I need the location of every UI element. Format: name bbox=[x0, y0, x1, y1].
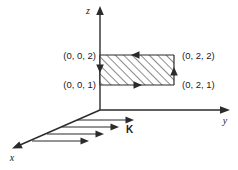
surface-current-arrows: K bbox=[32, 117, 134, 145]
k-arrow-2 bbox=[62, 124, 119, 131]
corner-label-top-right: (0, 2, 2) bbox=[182, 50, 215, 61]
corner-label-bottom-left: (0, 0, 1) bbox=[63, 79, 96, 90]
x-axis: x bbox=[9, 110, 100, 163]
current-label: K bbox=[126, 124, 134, 135]
k-arrow-1-head bbox=[126, 117, 135, 124]
z-axis-label: z bbox=[85, 5, 90, 16]
k-arrow-3 bbox=[47, 131, 104, 138]
corner-label-bottom-right: (0, 2, 1) bbox=[182, 79, 215, 90]
y-axis-arrowhead bbox=[220, 106, 230, 114]
y-axis-label: y bbox=[222, 115, 228, 126]
figure-root: z y x bbox=[0, 0, 238, 170]
k-arrow-4-head bbox=[81, 138, 90, 145]
k-arrow-3-head bbox=[96, 131, 105, 138]
x-axis-label: x bbox=[9, 152, 15, 163]
k-arrow-2-head bbox=[111, 124, 120, 131]
z-axis-arrowhead bbox=[96, 6, 104, 15]
loop-hatched-fill bbox=[100, 55, 174, 85]
k-arrow-4 bbox=[32, 138, 89, 145]
y-axis: y bbox=[100, 106, 230, 126]
amperian-loop bbox=[96, 51, 178, 89]
k-arrow-1 bbox=[77, 117, 134, 124]
corner-label-top-left: (0, 0, 2) bbox=[63, 50, 96, 61]
coordinate-diagram: z y x bbox=[0, 0, 238, 170]
